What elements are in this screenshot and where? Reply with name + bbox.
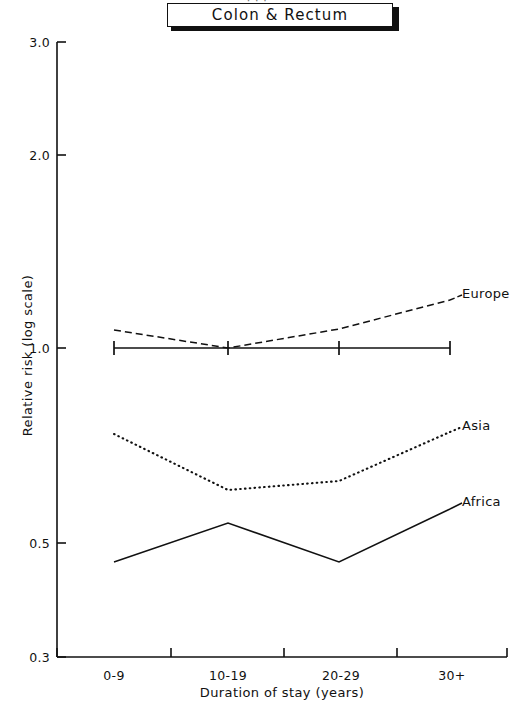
xtick-label-0-9: 0-9 bbox=[69, 668, 159, 683]
ytick-label-2-0: 2.0 bbox=[16, 148, 50, 163]
series-asia-leader bbox=[450, 427, 462, 432]
y-axis-label: Relative risk (log scale) bbox=[20, 256, 35, 456]
chart-figure: · · · Colon & Rectum bbox=[0, 0, 514, 707]
x-ticks bbox=[57, 648, 507, 657]
series-europe-leader bbox=[450, 295, 462, 300]
series-europe-line bbox=[114, 300, 450, 348]
plot-canvas bbox=[0, 0, 514, 707]
ytick-label-0-3: 0.3 bbox=[16, 650, 50, 665]
xtick-label-10-19: 10-19 bbox=[183, 668, 273, 683]
x-axis-label: Duration of stay (years) bbox=[57, 685, 507, 700]
series-reference bbox=[114, 341, 450, 355]
series-label-africa: Africa bbox=[462, 494, 501, 509]
xtick-label-20-29: 20-29 bbox=[296, 668, 386, 683]
series-africa-leader bbox=[450, 503, 462, 509]
series-africa-line bbox=[114, 509, 450, 562]
series-asia-line bbox=[114, 432, 450, 490]
series-label-asia: Asia bbox=[462, 418, 490, 433]
ytick-label-3-0: 3.0 bbox=[16, 35, 50, 50]
series-label-europe: Europe bbox=[462, 286, 510, 301]
xtick-label-30-plus: 30+ bbox=[407, 668, 497, 683]
ytick-label-0-5: 0.5 bbox=[16, 536, 50, 551]
y-ticks bbox=[57, 42, 66, 657]
